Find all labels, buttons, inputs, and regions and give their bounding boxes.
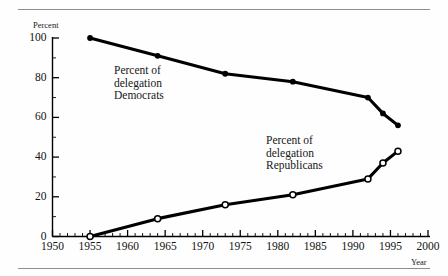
democrats-data-point (380, 111, 386, 117)
x-tick-label: 1975 (220, 240, 260, 252)
y-tick-label: 0 (21, 230, 47, 242)
figure-container: Percent Year Percent of delegation Democ… (0, 0, 448, 276)
x-tick-label: 2000 (408, 240, 448, 252)
series-lines (90, 38, 398, 237)
chart-plot (0, 0, 448, 276)
democrats-data-point (222, 71, 228, 77)
x-tick-label: 1950 (33, 240, 73, 252)
series-markers (87, 35, 401, 239)
democrats-data-point (290, 79, 296, 85)
x-tick-label: 1995 (370, 240, 410, 252)
republicans-line (90, 151, 398, 236)
y-tick-label: 60 (21, 110, 47, 122)
x-tick-label: 1970 (183, 240, 223, 252)
republicans-data-point (365, 176, 371, 182)
republicans-data-point (395, 148, 401, 154)
democrats-line (90, 38, 398, 125)
x-tick-label: 1985 (295, 240, 335, 252)
democrats-data-point (87, 35, 93, 41)
y-tick-label: 80 (21, 71, 47, 83)
y-axis-ticks (53, 38, 60, 237)
x-tick-label: 1990 (333, 240, 373, 252)
x-tick-label: 1960 (108, 240, 148, 252)
democrats-data-point (155, 53, 161, 59)
x-tick-label: 1965 (145, 240, 185, 252)
axis-lines (53, 37, 431, 237)
y-tick-label: 20 (21, 190, 47, 202)
democrats-data-point (395, 122, 401, 128)
republicans-data-point (87, 234, 93, 240)
republicans-data-point (290, 192, 296, 198)
x-tick-label: 1955 (70, 240, 110, 252)
y-tick-label: 40 (21, 150, 47, 162)
republicans-data-point (222, 202, 228, 208)
y-tick-label: 100 (21, 31, 47, 43)
republicans-data-point (155, 216, 161, 222)
democrats-data-point (365, 95, 371, 101)
republicans-data-point (380, 160, 386, 166)
x-tick-label: 1980 (258, 240, 298, 252)
